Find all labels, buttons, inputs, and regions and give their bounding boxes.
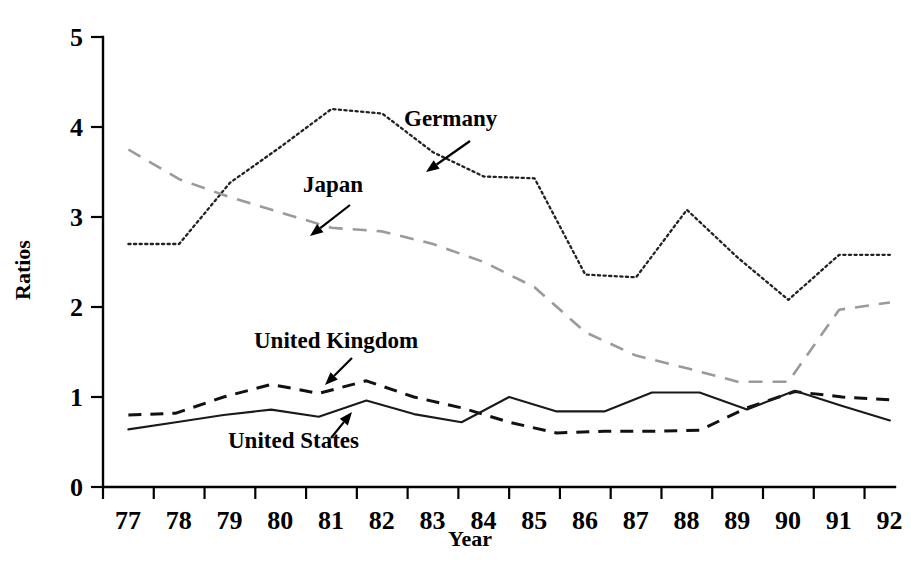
series-label-germany: Germany — [404, 106, 498, 131]
x-axis-tick-label: 92 — [877, 506, 903, 535]
x-axis-tick-label: 88 — [673, 506, 699, 535]
x-axis-tick-label: 82 — [369, 506, 395, 535]
series-line-japan — [128, 150, 890, 382]
x-axis-tick-label: 89 — [724, 506, 750, 535]
x-axis-tick-label: 79 — [217, 506, 243, 535]
chart-container: 01234577787980818283848586878889909192 G… — [0, 0, 911, 574]
annotation-arrow-line — [320, 205, 350, 228]
line-chart: 01234577787980818283848586878889909192 G… — [0, 0, 911, 574]
x-axis-tick-label: 91 — [826, 506, 852, 535]
annotation-arrow-head — [426, 160, 440, 172]
x-axis-tick-label: 86 — [572, 506, 598, 535]
x-axis-tick-label: 81 — [318, 506, 344, 535]
x-axis-tick-label: 78 — [166, 506, 192, 535]
annotation-arrow-line — [334, 358, 352, 376]
x-axis-tick-label: 87 — [623, 506, 649, 535]
series-label-japan: Japan — [303, 172, 363, 197]
series-label-united-states: United States — [228, 428, 359, 453]
series-label-united-kingdom: United Kingdom — [254, 328, 418, 353]
x-axis-tick-label: 85 — [521, 506, 547, 535]
y-axis-title: Ratios — [10, 240, 35, 300]
chart-axes: 01234577787980818283848586878889909192 — [70, 23, 903, 535]
series-line-germany — [128, 109, 890, 300]
annotation-arrow-head — [310, 224, 323, 236]
series-line-united-kingdom — [128, 381, 890, 433]
x-axis-tick-label: 83 — [420, 506, 446, 535]
y-axis-tick-label: 5 — [70, 23, 83, 52]
y-axis-tick-label: 1 — [70, 383, 83, 412]
y-axis-tick-label: 0 — [70, 473, 83, 502]
chart-series — [128, 109, 890, 433]
x-axis-tick-label: 80 — [267, 506, 293, 535]
y-axis-tick-label: 4 — [70, 113, 83, 142]
x-axis-tick-label: 90 — [775, 506, 801, 535]
x-axis-title: Year — [448, 526, 492, 551]
x-axis-tick-label: 77 — [115, 506, 141, 535]
y-axis-tick-label: 3 — [70, 203, 83, 232]
y-axis-tick-label: 2 — [70, 293, 83, 322]
